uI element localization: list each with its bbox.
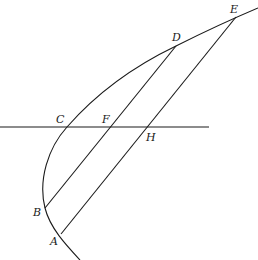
label-c: C — [56, 113, 65, 126]
label-d: D — [171, 31, 181, 44]
label-e: E — [229, 3, 238, 16]
segment-ae — [61, 17, 236, 234]
label-a: A — [49, 235, 58, 248]
label-b: B — [32, 206, 41, 219]
label-f: F — [101, 113, 110, 126]
geometry-diagram: E D C F H B A — [0, 0, 258, 260]
label-h: H — [145, 131, 156, 144]
